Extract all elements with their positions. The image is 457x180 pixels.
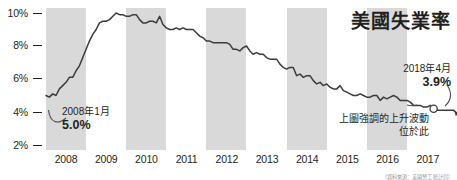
annotation-note-line1: 上圖強調的上升波動 (339, 113, 429, 126)
chart-container: 10% 8% 6% 4% 2% 2008 2009 2010 2011 2012… (0, 0, 457, 180)
leader-line-note (407, 105, 417, 106)
annotation-start-point: 2008年1月 5.0% (62, 106, 110, 132)
highlight-circle-marker (430, 105, 437, 112)
annotation-end-date: 2018年4月 (403, 63, 451, 75)
chart-title: 美國失業率 (351, 6, 451, 33)
annotation-end-point: 2018年4月 3.9% (403, 63, 451, 89)
source-footnote: （資料來源：美國勞工統計局） (382, 173, 453, 180)
annotation-note-line2: 位於此 (339, 126, 429, 139)
annotation-highlight-note: 上圖強調的上升波動 位於此 (339, 113, 429, 138)
annotation-end-value: 3.9% (403, 75, 451, 89)
annotation-start-value: 5.0% (62, 118, 110, 132)
annotation-start-date: 2008年1月 (62, 106, 110, 118)
